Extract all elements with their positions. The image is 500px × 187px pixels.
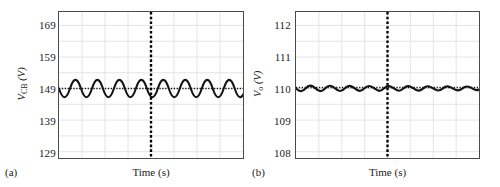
ytick-label: 110 [274,84,291,95]
ytick-label: 139 [39,116,56,127]
figure-container: 169 159 149 139 129 VCB (V) [0,0,500,187]
y-axis-label-subscript: o [256,87,265,91]
plot-area-b [295,11,480,159]
panel-a: 169 159 149 139 129 VCB (V) [0,0,250,187]
ytick-label: 111 [275,52,291,63]
y-axis-label-subscript: CB [20,83,29,94]
x-axis-label: Time (s) [295,167,480,178]
plot-svg-a [59,12,243,158]
y-axis-label: Vo (V) [253,49,265,119]
y-axis-label-symbol: V [252,91,263,97]
x-axis-label: Time (s) [58,167,244,178]
y-axis-label-unit: (V) [252,71,263,84]
y-axis-label-symbol: V [16,94,27,100]
panel-caption-a: (a) [5,167,17,178]
ytick-label: 149 [39,84,56,95]
ytick-label: 129 [39,148,56,159]
ytick-label: 109 [274,116,291,127]
y-axis-label-unit: (V) [16,67,27,80]
ytick-label: 159 [39,52,56,63]
ytick-label: 108 [274,148,291,159]
ytick-label: 169 [39,20,56,31]
panel-b: 112 111 110 109 108 Vo (V) [250,0,500,187]
ytick-label: 112 [274,20,291,31]
plot-svg-b [296,12,479,158]
panel-caption-b: (b) [252,167,265,178]
plot-area-a [58,11,244,159]
y-axis-label: VCB (V) [17,49,29,119]
